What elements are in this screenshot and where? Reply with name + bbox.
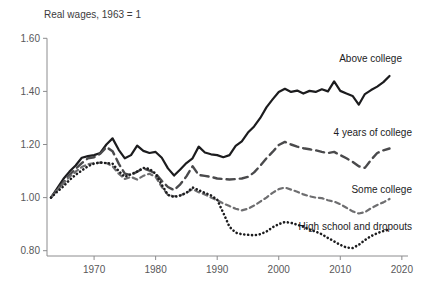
y-tick-label: 1.60: [21, 33, 41, 44]
y-tick-label: 1.40: [21, 86, 41, 97]
series-label-above-college: Above college: [339, 53, 402, 64]
chart-title: Real wages, 1963 = 1: [44, 9, 141, 20]
plot-background: [0, 0, 423, 294]
chart-canvas: 0.801.001.201.401.60 1970198019902000201…: [0, 0, 423, 294]
series-label-4-years-of-college: 4 years of college: [334, 127, 413, 138]
x-tick-label: 1980: [145, 264, 168, 275]
y-tick-label: 1.20: [21, 139, 41, 150]
x-tick-label: 2000: [268, 264, 291, 275]
y-tick-label: 0.80: [21, 245, 41, 256]
x-tick-label: 1970: [83, 264, 106, 275]
x-tick-label: 1990: [206, 264, 229, 275]
series-label-some-college: Some college: [351, 184, 412, 195]
real-wages-line-chart: 0.801.001.201.401.60 1970198019902000201…: [0, 0, 423, 294]
x-tick-label: 2010: [329, 264, 352, 275]
series-label-high-school-and-dropouts: High school and dropouts: [299, 221, 412, 232]
x-tick-label: 2020: [391, 264, 414, 275]
y-tick-label: 1.00: [21, 192, 41, 203]
